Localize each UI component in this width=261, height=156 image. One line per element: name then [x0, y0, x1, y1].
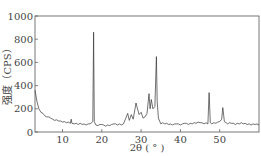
plot-frame [35, 16, 259, 132]
x-tick-label: 20 [95, 134, 108, 145]
xrd-series-line [35, 32, 259, 126]
x-tick-label: 50 [213, 134, 226, 145]
x-tick-label: 10 [56, 134, 69, 145]
y-tick-label: 800 [14, 34, 33, 45]
x-axis-label: 2θ ( ° ) [130, 142, 165, 153]
y-tick-label: 0 [27, 127, 33, 138]
x-tick-label: 40 [174, 134, 187, 145]
y-tick-label: 400 [14, 80, 33, 91]
xrd-chart: 02004006008001000 1020304050 2θ ( ° ) 强度… [0, 0, 261, 156]
y-tick-label: 200 [14, 103, 33, 114]
y-tick-label: 600 [14, 57, 33, 68]
y-tick-label: 1000 [8, 11, 33, 22]
y-axis-label: 强度（CPS） [1, 43, 13, 104]
